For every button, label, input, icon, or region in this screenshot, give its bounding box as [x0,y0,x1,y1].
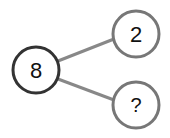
part-value-top: 2 [130,22,142,47]
connector-line-top [58,39,114,61]
unknown-part-value: ? [130,94,141,116]
connector-line-bottom [58,79,114,100]
whole-value: 8 [30,58,42,83]
part-circle-bottom: ? [113,82,159,128]
number-bond-diagram: 8 2 ? [0,0,170,138]
whole-circle: 8 [13,47,59,93]
diagram-canvas: 8 2 ? [0,0,170,138]
part-circle-top: 2 [113,11,159,57]
